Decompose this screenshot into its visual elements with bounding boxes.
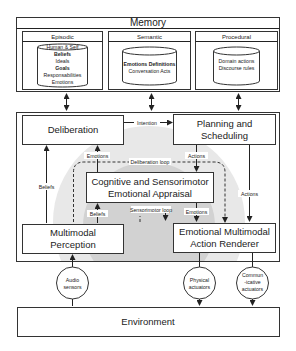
sensorimotor-loop-label: Sensorimotor loop (130, 207, 172, 213)
physical-label: actuators (189, 284, 211, 290)
memory-title: Memory (130, 17, 166, 28)
perception-label: Multimodal (50, 227, 96, 238)
communicative-label: Commun (242, 272, 263, 278)
actions-label: Actions (188, 153, 205, 159)
intention-label: Intention (137, 120, 157, 126)
procedural-title: Procedural (222, 34, 251, 40)
deliberation-loop-label: Deliberation loop (131, 159, 170, 165)
episodic-item: Responsabilities (44, 72, 82, 78)
deliberation-label: Deliberation (48, 124, 99, 135)
episodic-item: Beliefs (54, 51, 71, 57)
emotions-lower-label: Emotions (186, 209, 208, 215)
planning-label: Planning and (197, 118, 252, 129)
perception-label: Perception (50, 239, 95, 250)
audio-label: Audio (66, 277, 79, 283)
episodic-item: Ideals (56, 58, 70, 64)
communicative-label: -icative (244, 279, 261, 285)
episodic-item: Emotions (52, 79, 74, 85)
physical-label: Physical (190, 277, 209, 283)
communicative-label: actuators (242, 286, 264, 292)
environment-label: Environment (121, 316, 175, 327)
renderer-label: Emotional Multimodal (179, 226, 270, 237)
memory-group: Memory Episodic Human & Self Beliefs Ide… (17, 17, 280, 92)
episodic-item: Goals (55, 65, 70, 71)
procedural-item: Discourse rules (219, 65, 255, 71)
semantic-item: Emotions Definitions (124, 61, 176, 67)
audio-label: sensors (63, 284, 82, 290)
emotions-label: Emotions (87, 153, 109, 159)
beliefs-label: Beliefs (39, 184, 55, 190)
appraisal-label: Cognitive and Sensorimotor (91, 176, 208, 187)
audio-sensor-node (57, 267, 89, 299)
physical-actuator-node (184, 267, 216, 299)
episodic-item: Human & Self (46, 44, 79, 50)
procedural-item: Domain actions (219, 58, 255, 64)
episodic-title: Episodic (51, 34, 74, 40)
semantic-title: Semantic (137, 34, 162, 40)
architecture-diagram: Memory Episodic Human & Self Beliefs Ide… (0, 0, 296, 351)
renderer-label: Action Renderer (190, 238, 259, 249)
appraisal-label: Emotional Appraisal (108, 188, 192, 199)
beliefs-lower-label: Beliefs (90, 211, 106, 217)
actions-right-label: Actions (241, 191, 258, 197)
semantic-item: Conversation Acts (129, 68, 171, 74)
planning-label: Scheduling (201, 130, 248, 141)
